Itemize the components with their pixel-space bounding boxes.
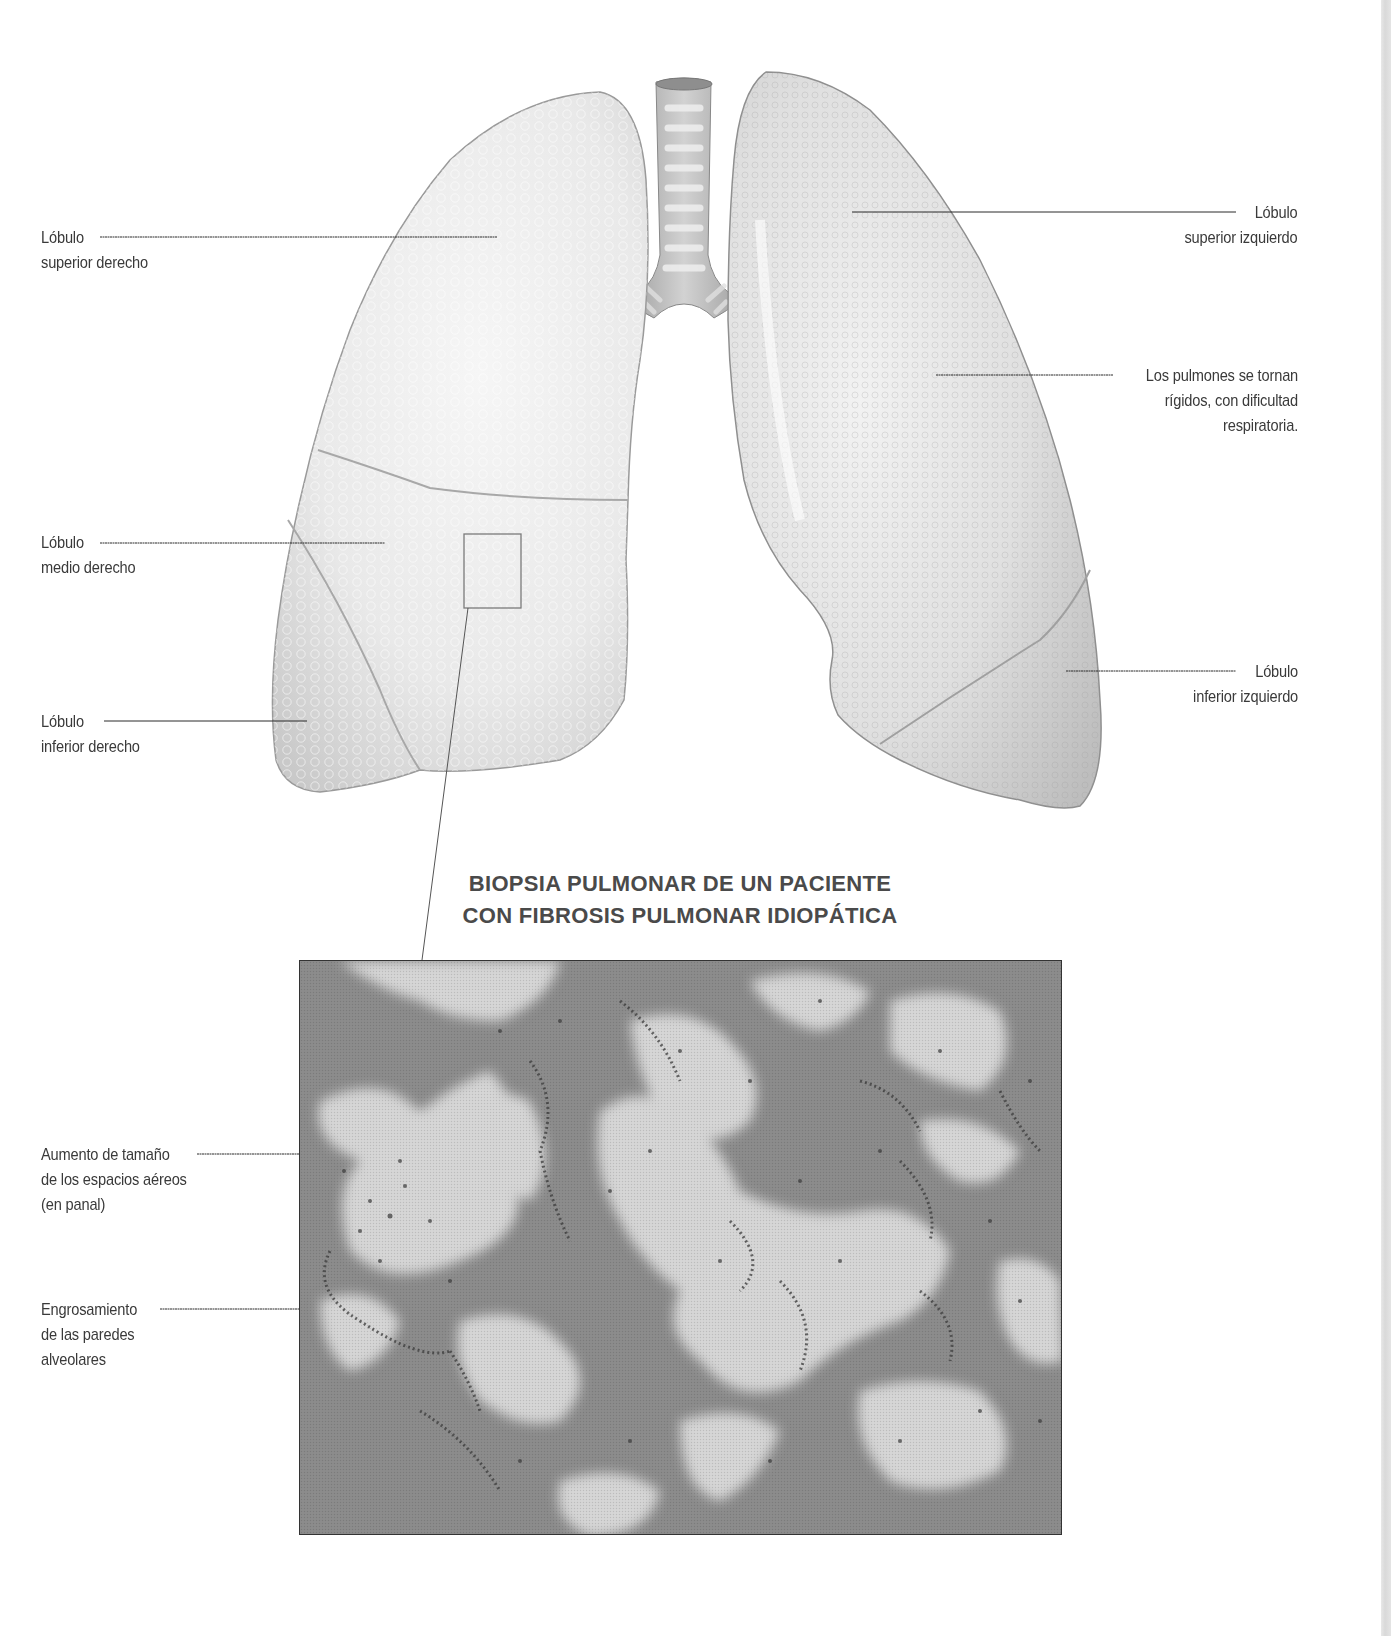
label-right-upper-lobe: Lóbulo superior derecho [41, 225, 148, 275]
left-lung [728, 72, 1101, 808]
label-line: superior izquierdo [1185, 225, 1298, 250]
label-line: Aumento de tamaño [41, 1142, 187, 1167]
biopsy-title: BIOPSIA PULMONAR DE UN PACIENTE CON FIBR… [380, 868, 980, 932]
label-line: superior derecho [41, 250, 148, 275]
label-line: inferior derecho [41, 734, 140, 759]
label-right-middle-lobe: Lóbulo medio derecho [41, 530, 135, 580]
label-line: respiratoria. [1146, 413, 1298, 438]
label-line: de las paredes [41, 1322, 137, 1347]
label-line: Los pulmones se tornan [1146, 363, 1298, 388]
biopsy-title-line: BIOPSIA PULMONAR DE UN PACIENTE [380, 868, 980, 900]
label-left-upper-lobe: Lóbulo superior izquierdo [1185, 200, 1298, 250]
biopsy-title-line: CON FIBROSIS PULMONAR IDIOPÁTICA [380, 900, 980, 932]
label-line: Lóbulo [41, 530, 135, 555]
label-right-lower-lobe: Lóbulo inferior derecho [41, 709, 140, 759]
label-alveolar-wall-thickening: Engrosamiento de las paredes alveolares [41, 1297, 137, 1372]
label-line: Lóbulo [1193, 659, 1298, 684]
label-line: medio derecho [41, 555, 135, 580]
label-line: inferior izquierdo [1193, 684, 1298, 709]
biopsy-tissue-image [300, 961, 1062, 1535]
label-lung-stiffness: Los pulmones se tornan rígidos, con difi… [1146, 363, 1298, 438]
label-honeycomb-airspaces: Aumento de tamaño de los espacios aéreos… [41, 1142, 187, 1217]
biopsy-micrograph [299, 960, 1062, 1535]
right-lung [272, 92, 648, 792]
label-line: Lóbulo [41, 709, 140, 734]
label-line: Engrosamiento [41, 1297, 137, 1322]
label-line: Lóbulo [41, 225, 148, 250]
label-line: Lóbulo [1185, 200, 1298, 225]
label-left-lower-lobe: Lóbulo inferior izquierdo [1193, 659, 1298, 709]
label-line: de los espacios aéreos [41, 1167, 187, 1192]
label-line: alveolares [41, 1347, 137, 1372]
label-line: rígidos, con dificultad [1146, 388, 1298, 413]
label-line: (en panal) [41, 1192, 187, 1217]
